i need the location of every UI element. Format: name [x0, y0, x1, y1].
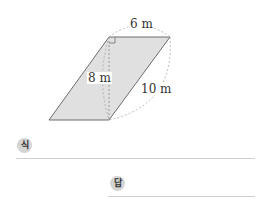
parallelogram-figure: 6 m 8 m 10 m	[0, 0, 268, 130]
top-length-label: 6 m	[129, 18, 154, 30]
expression-answer-line[interactable]	[16, 158, 255, 159]
final-answer-line[interactable]	[108, 196, 255, 197]
height-length-label: 8 m	[87, 72, 112, 84]
expression-badge: 식	[17, 138, 32, 153]
side-length-label: 10 m	[140, 83, 172, 95]
answer-badge: 답	[110, 176, 125, 191]
